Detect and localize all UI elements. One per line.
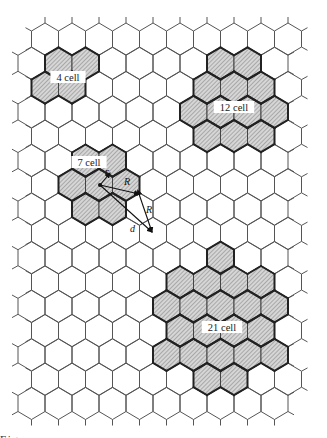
cluster-label: 4 cell <box>56 72 79 83</box>
label-r: r <box>105 166 109 177</box>
label-R-vertical: R <box>145 204 152 215</box>
cluster-label: 7 cell <box>77 157 100 168</box>
label-R-horizontal: R <box>123 176 130 187</box>
label-d: d <box>130 223 136 234</box>
cluster-label: 21 cell <box>208 322 236 333</box>
hex-cell-diagram: 4 cell12 cell7 cell21 cellrRRd <box>0 0 327 438</box>
cluster-21-cell <box>153 242 288 396</box>
figure-caption-clipped: Fig. · · · · · · · · · · · · · · · · · ·… <box>0 432 327 438</box>
cell-center-dot <box>98 183 102 187</box>
cluster-label: 12 cell <box>220 102 248 113</box>
cluster-12-cell <box>180 47 288 152</box>
